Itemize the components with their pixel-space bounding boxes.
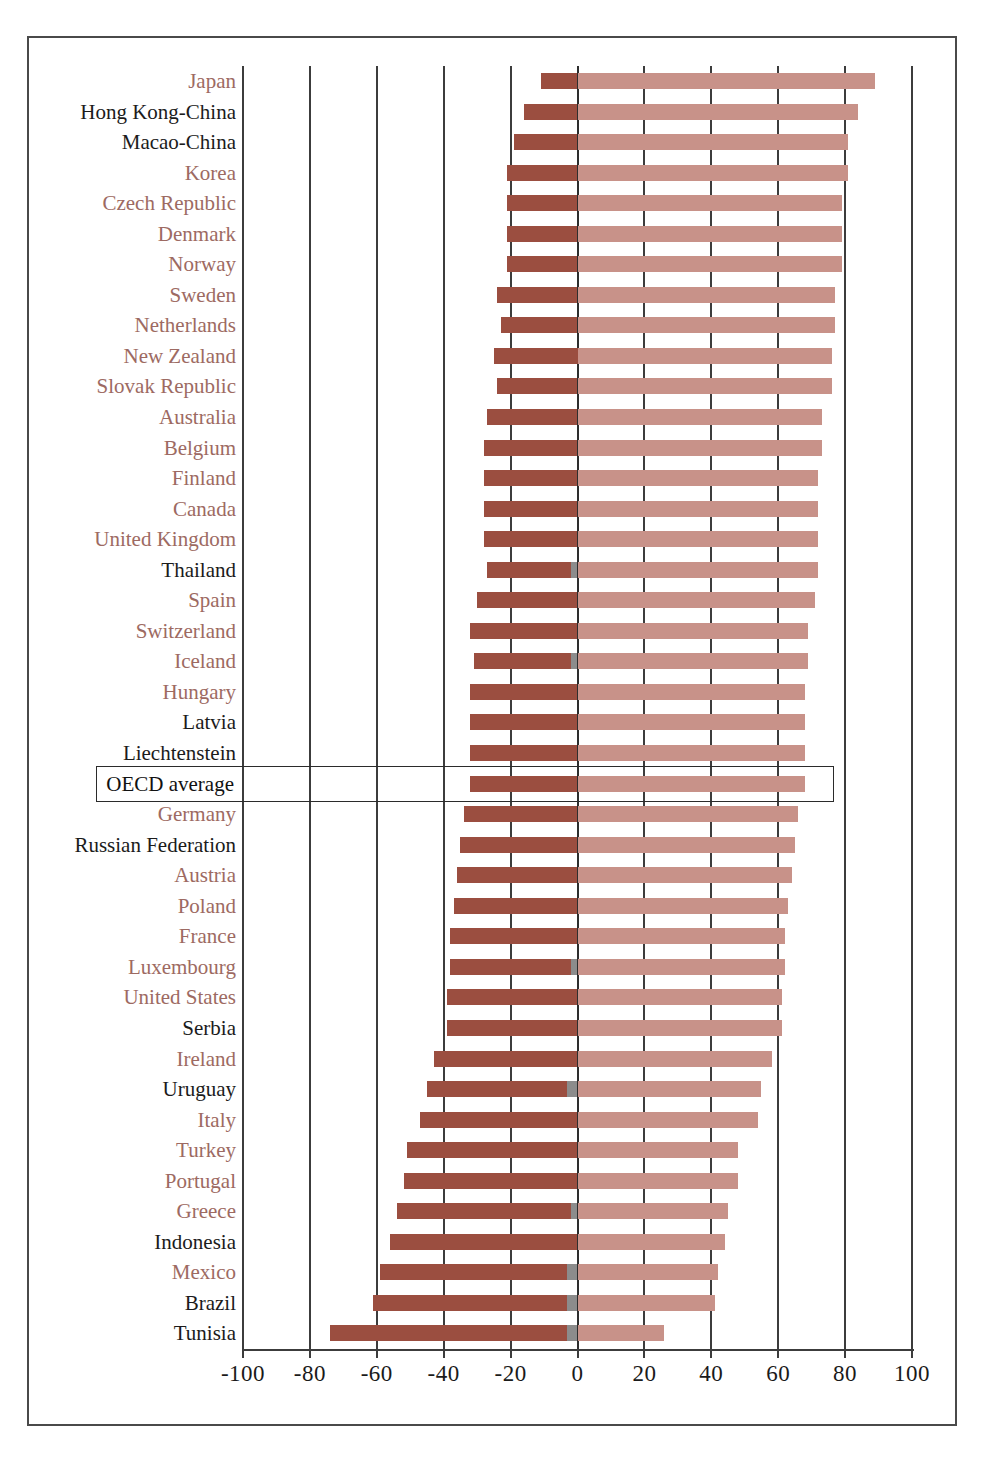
bar-row[interactable] — [243, 860, 912, 891]
bar-row[interactable] — [243, 1013, 912, 1044]
bar-segment-positive — [578, 1295, 715, 1311]
axis-tick-0 — [577, 1349, 579, 1358]
chart-page: JapanHong Kong-ChinaMacao-ChinaKoreaCzec… — [0, 0, 984, 1461]
bar-row[interactable] — [243, 769, 912, 800]
bar-segment-neutral — [571, 1203, 578, 1219]
bar-row[interactable] — [243, 921, 912, 952]
bar-row[interactable] — [243, 585, 912, 616]
category-label: Switzerland — [40, 616, 236, 647]
bar-row[interactable] — [243, 555, 912, 586]
bar-row[interactable] — [243, 127, 912, 158]
bar-segment-negative — [487, 562, 571, 578]
category-label: Italy — [40, 1105, 236, 1136]
bar-segment-negative — [457, 867, 577, 883]
category-label: Russian Federation — [40, 830, 236, 861]
category-label: Uruguay — [40, 1074, 236, 1105]
bar-row[interactable] — [243, 952, 912, 983]
category-label: Indonesia — [40, 1227, 236, 1258]
bar-row[interactable] — [243, 677, 912, 708]
bar-row[interactable] — [243, 494, 912, 525]
bar-row[interactable] — [243, 371, 912, 402]
bar-row[interactable] — [243, 1074, 912, 1105]
bar-segment-negative — [507, 165, 577, 181]
bar-segment-positive — [578, 562, 819, 578]
category-label: Tunisia — [40, 1318, 236, 1349]
bar-row[interactable] — [243, 433, 912, 464]
category-label: Hong Kong-China — [40, 97, 236, 128]
category-label: Ireland — [40, 1044, 236, 1075]
bar-row[interactable] — [243, 891, 912, 922]
bar-segment-positive — [578, 470, 819, 486]
bar-segment-negative — [474, 653, 571, 669]
bar-segment-negative — [477, 592, 577, 608]
bar-segment-positive — [578, 898, 789, 914]
bar-segment-positive — [578, 1081, 762, 1097]
bar-row[interactable] — [243, 830, 912, 861]
bar-row[interactable] — [243, 616, 912, 647]
bar-segment-positive — [578, 409, 822, 425]
bar-row[interactable] — [243, 1135, 912, 1166]
bar-row[interactable] — [243, 66, 912, 97]
bar-segment-negative — [497, 378, 577, 394]
bar-row[interactable] — [243, 188, 912, 219]
category-label: Slovak Republic — [40, 371, 236, 402]
bar-segment-positive — [578, 104, 859, 120]
category-label: Mexico — [40, 1257, 236, 1288]
bar-segment-negative — [450, 928, 577, 944]
bar-row[interactable] — [243, 1227, 912, 1258]
bar-row[interactable] — [243, 799, 912, 830]
bar-segment-negative — [484, 470, 578, 486]
bar-row[interactable] — [243, 310, 912, 341]
bar-row[interactable] — [243, 1318, 912, 1349]
category-label: Greece — [40, 1196, 236, 1227]
bar-row[interactable] — [243, 982, 912, 1013]
bar-row[interactable] — [243, 1166, 912, 1197]
category-label: Sweden — [40, 280, 236, 311]
bar-row[interactable] — [243, 1196, 912, 1227]
bar-segment-negative — [501, 317, 578, 333]
bar-row[interactable] — [243, 249, 912, 280]
bar-row[interactable] — [243, 707, 912, 738]
bar-segment-neutral — [567, 1264, 577, 1280]
bar-row[interactable] — [243, 1105, 912, 1136]
category-label: Hungary — [40, 677, 236, 708]
category-label: Latvia — [40, 707, 236, 738]
bar-row[interactable] — [243, 1044, 912, 1075]
bar-row[interactable] — [243, 463, 912, 494]
bar-segment-positive — [578, 989, 782, 1005]
bar-segment-positive — [578, 928, 785, 944]
bar-segment-negative — [484, 440, 578, 456]
category-label: Belgium — [40, 433, 236, 464]
bar-row[interactable] — [243, 1257, 912, 1288]
bar-row[interactable] — [243, 1288, 912, 1319]
bar-row[interactable] — [243, 646, 912, 677]
bar-row[interactable] — [243, 219, 912, 250]
category-label: Canada — [40, 494, 236, 525]
bar-row[interactable] — [243, 280, 912, 311]
bar-segment-negative — [460, 837, 577, 853]
axis-tick--20 — [510, 1349, 512, 1358]
bar-segment-positive — [578, 623, 809, 639]
bar-row[interactable] — [243, 158, 912, 189]
axis-tick-80 — [844, 1349, 846, 1358]
bar-segment-neutral — [571, 562, 578, 578]
category-label: Japan — [40, 66, 236, 97]
value-axis-line — [243, 1349, 914, 1351]
bar-segment-negative — [427, 1081, 567, 1097]
bar-segment-negative — [494, 348, 578, 364]
axis-tick-40 — [710, 1349, 712, 1358]
bar-segment-positive — [578, 1020, 782, 1036]
bar-row[interactable] — [243, 341, 912, 372]
bar-segment-positive — [578, 195, 842, 211]
category-label: Denmark — [40, 219, 236, 250]
bar-row[interactable] — [243, 97, 912, 128]
bar-segment-positive — [578, 226, 842, 242]
bar-segment-negative — [487, 409, 577, 425]
bar-row[interactable] — [243, 524, 912, 555]
axis-tick--100 — [242, 1349, 244, 1358]
bar-row[interactable] — [243, 402, 912, 433]
category-label: Thailand — [40, 555, 236, 586]
bar-row[interactable] — [243, 738, 912, 769]
bar-segment-negative — [390, 1234, 577, 1250]
bar-segment-positive — [578, 134, 849, 150]
